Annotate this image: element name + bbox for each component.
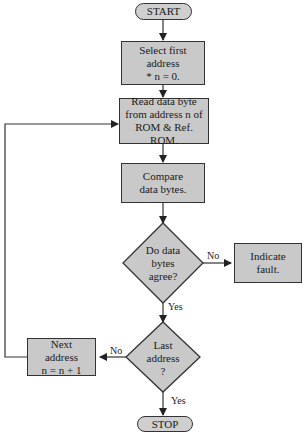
indicate-fault-box: Indicate fault. bbox=[234, 243, 302, 283]
select-first-address-text: Select first address * n = 0. bbox=[139, 44, 186, 83]
last-no-label: No bbox=[110, 345, 122, 356]
indicate-fault-text: Indicate fault. bbox=[250, 250, 285, 276]
stop-terminal: STOP bbox=[137, 416, 193, 432]
stop-label: STOP bbox=[152, 418, 179, 431]
decision-last-address: Last address ? bbox=[136, 338, 190, 378]
agree-no-label: No bbox=[207, 250, 219, 261]
compare-data-bytes-text: Compare data bytes. bbox=[139, 170, 186, 196]
start-label: START bbox=[147, 5, 180, 18]
next-address-text: Next address n = n + 1 bbox=[42, 338, 82, 377]
read-data-byte-text: Read data byte from address n of ROM & R… bbox=[120, 95, 208, 147]
decision-last-text: Last address ? bbox=[147, 339, 180, 378]
select-first-address-box: Select first address * n = 0. bbox=[121, 41, 205, 85]
decision-agree-text: Do data bytes agree? bbox=[146, 244, 181, 283]
agree-yes-label: Yes bbox=[168, 301, 183, 312]
compare-data-bytes-box: Compare data bytes. bbox=[121, 163, 205, 203]
last-yes-label: Yes bbox=[171, 395, 186, 406]
read-data-byte-box: Read data byte from address n of ROM & R… bbox=[119, 98, 209, 144]
next-address-box: Next address n = n + 1 bbox=[27, 338, 96, 376]
decision-agree: Do data bytes agree? bbox=[133, 243, 193, 283]
start-terminal: START bbox=[135, 3, 192, 20]
